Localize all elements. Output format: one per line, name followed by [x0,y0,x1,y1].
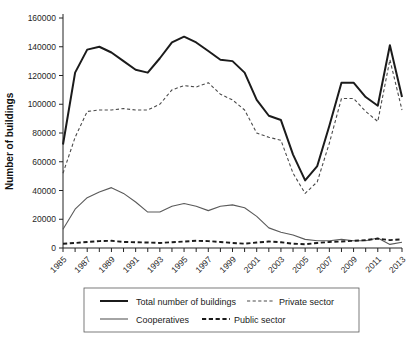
x-tick-label: 2003 [266,254,287,275]
chart-container: Number of buildings 02000040000600008000… [0,0,418,338]
legend-label: Cooperatives [136,315,190,325]
series-line-total-number-of-buildings [63,37,402,181]
line-chart: Number of buildings 02000040000600008000… [0,0,418,338]
x-tick-label: 2001 [242,254,263,275]
data-series-group [63,37,402,245]
y-tick-label: 40000 [32,186,56,196]
x-tick-label: 1987 [72,254,93,275]
x-tick-label: 1989 [96,254,117,275]
x-tick-label: 1985 [48,254,69,275]
x-tick-label: 1997 [193,254,214,275]
y-axis-ticks: 0200004000060000800001000001200001400001… [28,13,63,253]
series-line-private-sector [63,60,402,194]
x-tick-label: 2007 [314,254,335,275]
y-tick-label: 120000 [28,71,57,81]
x-tick-label: 2013 [387,254,408,275]
y-tick-label: 160000 [28,13,57,23]
x-tick-label: 2009 [339,254,360,275]
x-tick-label: 1999 [217,254,238,275]
legend-border [84,288,359,332]
legend-label: Total number of buildings [136,297,237,307]
y-tick-label: 80000 [32,128,56,138]
x-axis-ticks: 1985198719891991199319951997199920012003… [48,248,408,275]
y-axis-title: Number of buildings [4,92,15,190]
x-tick-label: 2005 [290,254,311,275]
x-tick-label: 1991 [121,254,142,275]
x-tick-label: 1993 [145,254,166,275]
y-tick-label: 20000 [32,214,56,224]
y-tick-label: 0 [51,243,56,253]
x-tick-label: 2011 [363,254,383,274]
y-tick-label: 140000 [28,42,57,52]
chart-legend: Total number of buildingsPrivate sectorC… [84,288,359,332]
y-tick-label: 60000 [32,157,56,167]
series-line-cooperatives [63,188,402,245]
series-line-public-sector [63,239,402,245]
legend-label: Private sector [279,297,334,307]
legend-label: Public sector [234,315,286,325]
y-tick-label: 100000 [28,99,57,109]
x-tick-label: 1995 [169,254,190,275]
y-axis-label: Number of buildings [4,92,15,190]
